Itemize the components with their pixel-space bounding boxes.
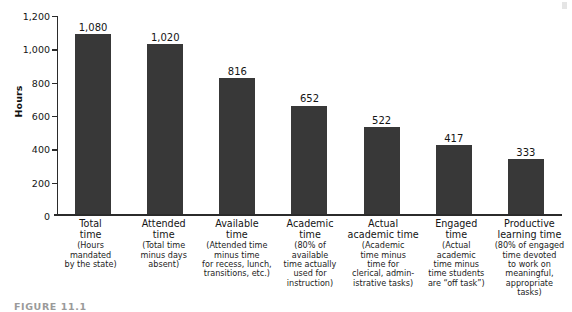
bar[interactable] (291, 106, 327, 215)
category-label: Availabletime(Attended timeminus timefor… (200, 219, 273, 279)
category-label: Engagedtime(Actualacademictime minustime… (420, 219, 493, 288)
bar-value-label: 816 (228, 66, 247, 77)
y-tick-label: 0 (8, 211, 50, 222)
category-description: (Attended timeminus timefor recess, lunc… (200, 241, 273, 279)
figure-caption: FIGURE 11.1 (14, 301, 87, 312)
bar-value-label: 522 (372, 115, 391, 126)
bar-series: 1,0801,020816652522417333 (57, 10, 562, 214)
bar[interactable] (436, 145, 472, 215)
category-description: (80% of engagedtime devotedto work onmea… (493, 241, 566, 297)
category-label: Academictime(80% ofavailabletime actuall… (273, 219, 346, 288)
category-description: (Total timeminus daysabsent) (127, 241, 200, 269)
bar-slot: 417 (418, 10, 490, 214)
bar-value-label: 333 (516, 147, 535, 158)
bar-slot: 522 (346, 10, 418, 214)
category-title: Availabletime (200, 219, 273, 240)
y-tick-label: 600 (8, 111, 50, 122)
category-title: Productivelearning time (493, 219, 566, 240)
category-description: (Academictime minustime forclerical, adm… (347, 241, 420, 288)
bar[interactable] (219, 78, 255, 214)
category-label: Productivelearning time(80% of engagedti… (493, 219, 566, 298)
y-tick-label: 200 (8, 177, 50, 188)
bar-value-label: 1,020 (151, 32, 180, 43)
category-title: Totaltime (54, 219, 127, 240)
category-label: Actualacademic time(Academictime minusti… (347, 219, 420, 288)
category-label: Attendedtime(Total timeminus daysabsent) (127, 219, 200, 269)
x-axis-category-labels: Totaltime(Hoursmandatedby the state)Atte… (54, 219, 566, 303)
y-tick-label: 800 (8, 77, 50, 88)
bar-slot: 333 (490, 10, 562, 214)
category-title: Academictime (273, 219, 346, 240)
y-tick-label: 1,000 (8, 44, 50, 55)
bar[interactable] (147, 44, 183, 214)
category-label: Totaltime(Hoursmandatedby the state) (54, 219, 127, 269)
bar[interactable] (364, 127, 400, 214)
category-description: (Hoursmandatedby the state) (54, 241, 127, 269)
scan-artifact-mark (562, 2, 567, 9)
category-title: Actualacademic time (347, 219, 420, 240)
y-tick-label: 400 (8, 144, 50, 155)
bar-slot: 816 (201, 10, 273, 214)
bar-slot: 652 (273, 10, 345, 214)
bar[interactable] (75, 34, 111, 214)
bar-slot: 1,080 (57, 10, 129, 214)
y-tick-label: 1,200 (8, 11, 50, 22)
bar-value-label: 1,080 (79, 22, 108, 33)
bar[interactable] (508, 159, 544, 215)
y-axis-tick-labels: 02004006008001,0001,200 (8, 10, 50, 216)
bar-value-label: 652 (300, 93, 319, 104)
category-title: Engagedtime (420, 219, 493, 240)
bar-value-label: 417 (444, 133, 463, 144)
category-description: (Actualacademictime minustime studentsar… (420, 241, 493, 288)
plot-area: 1,0801,020816652522417333 (57, 10, 562, 216)
category-title: Attendedtime (127, 219, 200, 240)
bar-slot: 1,020 (129, 10, 201, 214)
x-axis-line (54, 214, 562, 216)
category-description: (80% ofavailabletime actuallyused forins… (273, 241, 346, 288)
